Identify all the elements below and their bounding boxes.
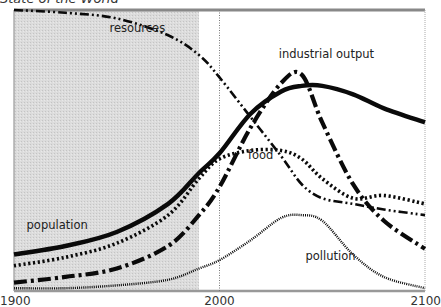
x-tick-2000: 2000	[204, 294, 235, 307]
x-axis-ticks: 190020002100	[0, 294, 441, 307]
label-pollution: pollution	[305, 249, 355, 263]
x-tick-1900: 1900	[0, 294, 31, 307]
label-food: food	[248, 148, 273, 162]
label-resources: resources	[109, 21, 165, 35]
label-population: population	[27, 218, 88, 232]
x-tick-2100: 2100	[410, 294, 441, 307]
label-industrial-output: industrial output	[279, 47, 375, 61]
line-chart: resourcesindustrial outputfoodpopulation…	[0, 0, 441, 307]
